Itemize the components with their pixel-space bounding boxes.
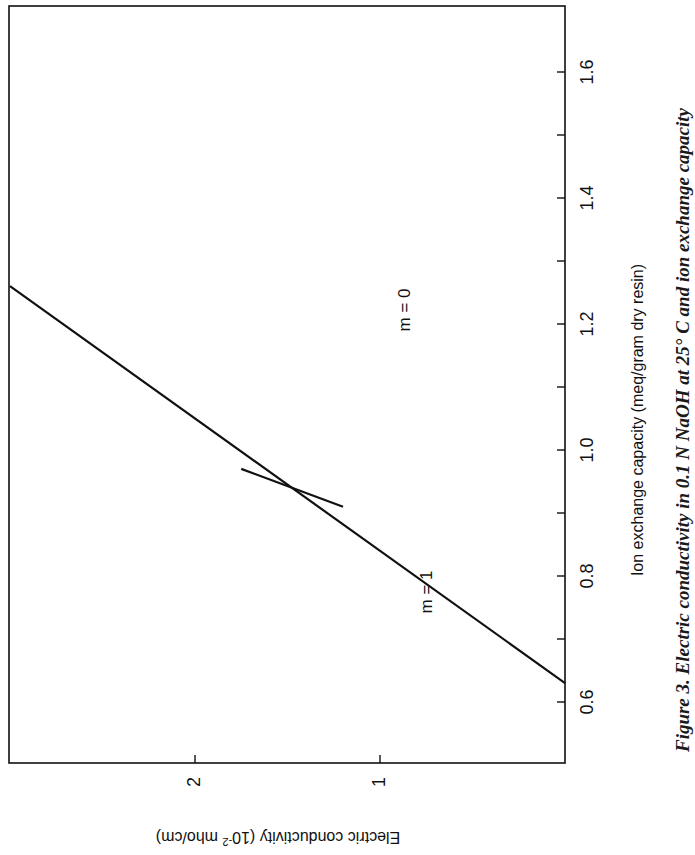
- x-tick-label: 1.2: [577, 311, 597, 336]
- x-tick-label: 1.4: [577, 185, 597, 210]
- series-line: [10, 286, 565, 683]
- series-line: [241, 469, 343, 507]
- x-tick-label: 0.6: [577, 689, 597, 714]
- x-tick-label: 1.0: [577, 437, 597, 462]
- x-tick-label: 1.6: [577, 59, 597, 84]
- y-tick-label: 1: [369, 777, 389, 787]
- x-axis-title: Ion exchange capacity (meq/gram dry resi…: [629, 264, 646, 576]
- label-m1: m = 1: [417, 571, 436, 614]
- data-series: [10, 286, 565, 683]
- y-tick-label: 2: [184, 777, 204, 787]
- chart-canvas: 0.60.81.01.21.41.6 12 m = 0 m = 1 Ion ex…: [0, 0, 695, 855]
- x-tick-label: 0.8: [577, 563, 597, 588]
- label-m0: m = 0: [395, 289, 414, 332]
- y-axis-ticks: 12: [184, 755, 389, 787]
- figure-caption: Figure 3. Electric conductivity in 0.1 N…: [672, 108, 694, 752]
- plot-frame: [9, 6, 565, 763]
- x-axis-ticks: 0.60.81.01.21.41.6: [557, 59, 597, 714]
- y-axis-title: Electric conductivity (10-2 mho/cm): [156, 829, 401, 848]
